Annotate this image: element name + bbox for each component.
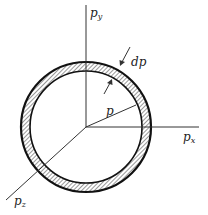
- thickness-label: dp: [131, 55, 147, 69]
- momentum-shell-diagram: py px pz p dp: [0, 0, 208, 215]
- radius-label: p: [106, 104, 114, 118]
- y-axis-label: py: [90, 6, 103, 21]
- z-axis-label: pz: [14, 194, 27, 209]
- x-axis-label: px: [183, 130, 196, 145]
